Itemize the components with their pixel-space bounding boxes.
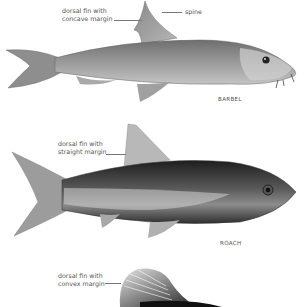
roach-dorsal-leader-line — [106, 154, 126, 155]
barbel-spine-leader-line — [162, 12, 182, 13]
roach-species-name: ROACH — [220, 240, 242, 246]
roach-illustration — [0, 110, 306, 250]
barbel-spine-annotation: spine — [185, 8, 202, 16]
third-fish-figure: dorsal fin with convex margin — [0, 250, 306, 307]
third-fish-dorsal-annotation: dorsal fin with convex margin — [58, 272, 105, 287]
roach-dorsal-annotation: dorsal fin with straight margin — [58, 140, 107, 155]
barbel-dorsal-leader-line — [114, 20, 142, 21]
barbel-dorsal-annotation: dorsal fin with concave margin — [62, 7, 112, 22]
roach-figure: dorsal fin with straight margin ROACH — [0, 110, 306, 250]
barbel-figure: dorsal fin with concave margin spine BAR… — [0, 0, 306, 110]
barbel-species-name: BARBEL — [218, 96, 242, 102]
third-fish-dorsal-leader-line — [105, 283, 121, 284]
third-fish-illustration — [0, 250, 306, 307]
barbel-illustration — [0, 0, 306, 110]
